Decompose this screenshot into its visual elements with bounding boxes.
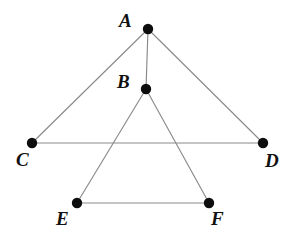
vertex-label-a: A — [118, 10, 132, 31]
segment-AD — [148, 29, 263, 143]
vertex-dot-e — [72, 198, 82, 208]
vertex-dot-b — [141, 84, 151, 94]
vertex-dot-f — [204, 198, 214, 208]
vertex-dot-a — [143, 24, 153, 34]
geometry-figure: ABCDEF — [0, 0, 302, 235]
vertex-label-f: F — [210, 208, 224, 229]
vertex-dot-d — [258, 138, 268, 148]
segment-AC — [32, 29, 148, 143]
vertex-label-e: E — [55, 208, 69, 229]
vertex-label-b: B — [116, 71, 130, 92]
segments-group — [32, 29, 263, 203]
segment-AB — [146, 29, 148, 89]
vertex-label-d: D — [264, 150, 279, 171]
vertex-dot-c — [27, 138, 37, 148]
segment-BF — [146, 89, 209, 203]
vertex-label-c: C — [16, 149, 29, 170]
geometry-canvas: ABCDEF — [0, 0, 302, 235]
segment-BE — [77, 89, 146, 203]
